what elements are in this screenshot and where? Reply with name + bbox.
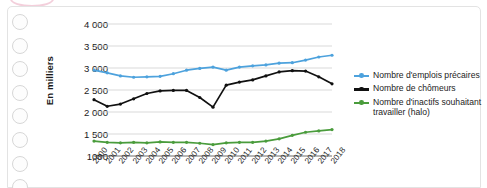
data-point <box>251 64 254 67</box>
chart: En milliers 10001 5002 0002 5003 0003 50… <box>36 8 480 184</box>
data-point <box>330 128 333 131</box>
data-point <box>145 75 148 78</box>
data-point <box>92 98 95 101</box>
data-point <box>211 143 214 146</box>
punch-hole <box>12 156 28 172</box>
page-root: En milliers 10001 5002 0002 5003 0003 50… <box>0 0 487 188</box>
data-point <box>225 69 228 72</box>
data-point <box>145 92 148 95</box>
data-point <box>172 89 175 92</box>
data-point <box>330 54 333 57</box>
data-point <box>185 89 188 92</box>
data-point <box>251 78 254 81</box>
data-point <box>225 84 228 87</box>
data-point <box>291 61 294 64</box>
data-point <box>211 66 214 69</box>
data-point <box>92 69 95 72</box>
punch-hole <box>12 38 28 54</box>
data-point <box>198 67 201 70</box>
data-point <box>106 141 109 144</box>
data-point <box>330 82 333 85</box>
data-point <box>238 66 241 69</box>
legend-item[interactable]: Nombre de chômeurs <box>354 83 487 94</box>
legend-item[interactable]: Nombre d'emplois précaires <box>354 70 487 81</box>
data-point <box>185 69 188 72</box>
legend-item[interactable]: Nombre d'inactifs souhaitant travailler … <box>354 97 487 118</box>
data-point <box>251 141 254 144</box>
data-point <box>172 72 175 75</box>
legend-marker-icon <box>354 98 369 108</box>
x-axis-ticks: 2000200120022003200420052006200720082009… <box>36 8 366 48</box>
punch-hole <box>12 108 28 124</box>
data-point <box>159 75 162 78</box>
data-point <box>106 105 109 108</box>
legend-label: Nombre de chômeurs <box>373 83 456 94</box>
data-point <box>119 74 122 77</box>
legend-marker-icon <box>354 84 369 94</box>
legend-label: Nombre d'emplois précaires <box>373 70 480 81</box>
series-line <box>94 130 332 145</box>
data-point <box>317 75 320 78</box>
data-point <box>119 141 122 144</box>
data-point <box>278 70 281 73</box>
data-point <box>159 89 162 92</box>
data-point <box>304 69 307 72</box>
legend-label: Nombre d'inactifs souhaitant travailler … <box>373 97 487 118</box>
punch-hole <box>12 14 28 30</box>
plot-area: En milliers 10001 5002 0002 5003 0003 50… <box>36 8 336 184</box>
data-point <box>198 96 201 99</box>
notebook-binding <box>12 14 36 188</box>
data-point <box>211 106 214 109</box>
data-point <box>106 71 109 74</box>
data-point <box>238 141 241 144</box>
data-point <box>304 58 307 61</box>
data-point <box>119 102 122 105</box>
data-point <box>291 69 294 72</box>
data-point <box>264 63 267 66</box>
chart-legend: Nombre d'emplois précairesNombre de chôm… <box>354 70 487 120</box>
punch-hole <box>12 132 28 148</box>
data-point <box>304 131 307 134</box>
data-point <box>278 137 281 140</box>
data-point <box>159 140 162 143</box>
data-point <box>172 141 175 144</box>
data-point <box>278 62 281 65</box>
data-point <box>132 97 135 100</box>
data-point <box>132 76 135 79</box>
punch-hole <box>12 61 28 77</box>
data-point <box>264 74 267 77</box>
data-point <box>92 139 95 142</box>
data-point <box>132 141 135 144</box>
data-point <box>185 141 188 144</box>
punch-hole <box>12 179 28 188</box>
data-point <box>198 142 201 145</box>
data-point <box>317 55 320 58</box>
punch-hole <box>12 85 28 101</box>
data-point <box>291 134 294 137</box>
legend-marker-icon <box>354 71 369 81</box>
data-point <box>317 129 320 132</box>
data-point <box>264 139 267 142</box>
data-point <box>145 141 148 144</box>
data-point <box>225 141 228 144</box>
data-point <box>238 80 241 83</box>
